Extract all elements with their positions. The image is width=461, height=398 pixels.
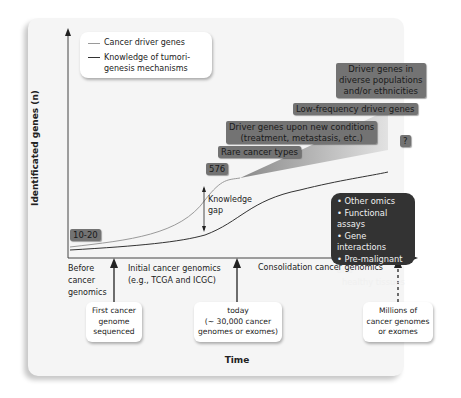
milestone-today: today(~ 30,000 cancergenomes or exomes)	[194, 302, 282, 342]
legend: Cancer driver genes Knowledge of tumori-…	[80, 32, 212, 78]
x-axis-label: Time	[225, 355, 250, 365]
era-initial: Initial cancer genomics(e.g., TCGA and I…	[128, 263, 221, 287]
legend-swatch-dark	[88, 57, 100, 58]
future-needs-box: • Other omics • Functional assays • Gene…	[331, 193, 415, 265]
low-frequency-box: Low-frequency driver genes	[293, 103, 418, 115]
legend-swatch-gray	[88, 43, 100, 44]
milestone-future: Millions ofcancer genomesor exomes	[363, 302, 433, 342]
unknown-badge: ?	[400, 135, 411, 147]
y-axis-label: Identificated genes (n)	[30, 90, 40, 206]
legend-item-knowledge: Knowledge of tumori- genesis mechanisms	[88, 52, 190, 74]
mid-count-badge: 576	[206, 163, 228, 175]
rare-cancer-types-box: Rare cancer types	[218, 146, 301, 158]
diverse-populations-box: Driver genes in diverse populations and/…	[336, 63, 426, 98]
new-conditions-box: Driver genes upon new conditions (treatm…	[226, 121, 377, 144]
milestone-first-genome: First cancergenomesequenced	[86, 302, 142, 342]
legend-item-driver-genes: Cancer driver genes	[88, 38, 185, 47]
y-axis-arrow-icon	[65, 28, 71, 36]
era-consolidation: Consolidation cancer genomics	[258, 263, 383, 273]
era-before: Beforecancergenomics	[68, 263, 107, 299]
start-count-badge: 10-20	[70, 229, 101, 241]
knowledge-gap-label: Knowledge gap	[208, 194, 252, 216]
